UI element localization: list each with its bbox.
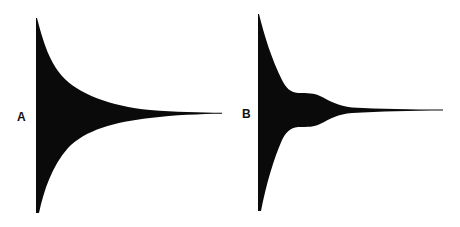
envelope-drawing — [0, 0, 460, 227]
envelope-b — [258, 14, 443, 211]
envelope-a — [36, 18, 222, 213]
decay-envelope-figure: A B — [0, 0, 460, 227]
panel-label-b: B — [242, 108, 251, 120]
panel-label-a: A — [17, 111, 26, 123]
